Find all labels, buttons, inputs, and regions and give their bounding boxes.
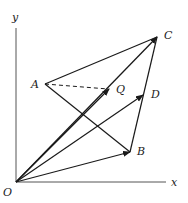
- segment-a-q-dashed: [45, 84, 108, 89]
- point-c-label: C: [164, 29, 173, 42]
- point-b-label: B: [136, 145, 145, 158]
- vector-o-d: [16, 95, 143, 182]
- vector-diagram: y x O A C Q D B: [0, 0, 188, 203]
- origin-label: O: [3, 186, 12, 199]
- vector-o-b: [16, 152, 130, 182]
- point-d-label: D: [150, 88, 160, 101]
- point-q-label: Q: [116, 83, 125, 96]
- y-axis-label: y: [11, 11, 19, 24]
- vector-o-q: [16, 89, 109, 182]
- x-axis-label: x: [171, 176, 178, 189]
- point-a-label: A: [30, 78, 39, 91]
- segment-a-c: [45, 37, 157, 84]
